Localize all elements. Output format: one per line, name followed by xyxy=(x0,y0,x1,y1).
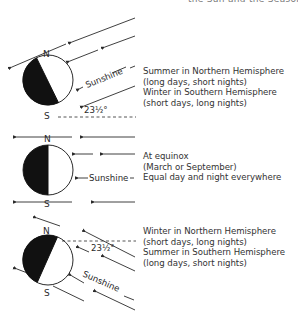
tilt-angle-label: 23½° xyxy=(91,243,115,253)
south-label: S xyxy=(44,288,50,298)
north-label: N xyxy=(43,226,50,236)
caption-line: (short days, long nights) xyxy=(143,237,285,248)
sunshine-label: Sunshine xyxy=(89,173,128,183)
tilt-angle-label: 23½° xyxy=(84,105,108,115)
caption-equinox: At equinox (March or September) Equal da… xyxy=(143,151,281,183)
caption-northern-winter: Winter in Northern Hemisphere (short day… xyxy=(143,226,285,268)
caption-line: (March or September) xyxy=(143,162,281,173)
caption-line: Winter in Southern Hemisphere xyxy=(143,87,284,98)
caption-line: Summer in Northern Hemisphere xyxy=(143,66,284,77)
north-label: N xyxy=(43,49,50,59)
panel-equinox: N S Sunshine xyxy=(17,134,135,209)
north-label: N xyxy=(44,134,51,144)
south-label: S xyxy=(44,111,50,121)
night-side xyxy=(23,145,48,195)
caption-line: At equinox xyxy=(143,151,281,162)
south-label: S xyxy=(44,199,50,209)
caption-line: (long days, short nights) xyxy=(143,258,285,269)
caption-northern-summer: Summer in Northern Hemisphere (long days… xyxy=(143,66,284,108)
globe-northern-summer xyxy=(22,55,73,105)
sunshine-label: Sunshine xyxy=(81,269,121,294)
caption-line: Summer in Southern Hemisphere xyxy=(143,247,285,258)
globe-northern-winter xyxy=(22,235,73,285)
caption-line: (short days, long nights) xyxy=(143,98,284,109)
panel-northern-winter: N S Sunshine 23½° xyxy=(17,218,136,310)
panel-northern-summer: N S Sunshine 23½° xyxy=(12,18,136,121)
caption-line: (long days, short nights) xyxy=(143,77,284,88)
sunshine-label: Sunshine xyxy=(84,66,124,90)
caption-line: Equal day and night everywhere xyxy=(143,172,281,183)
globe-equinox xyxy=(23,145,73,195)
caption-line: Winter in Northern Hemisphere xyxy=(143,226,285,237)
